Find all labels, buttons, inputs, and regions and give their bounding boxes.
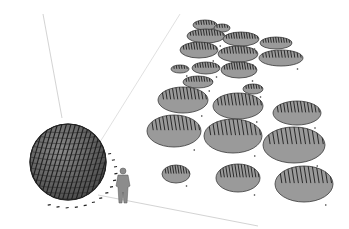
disc[interactable] [158,87,208,117]
disc[interactable] [162,165,190,187]
disc[interactable] [216,164,260,196]
human-scale-figure-icon[interactable] [116,168,130,203]
disc[interactable] [147,115,201,151]
sphere-model-icon[interactable] [18,124,121,200]
3d-scene-canvas[interactable] [0,0,349,229]
disc[interactable] [171,65,189,77]
disc[interactable] [213,93,263,123]
disc[interactable] [204,119,262,157]
disc-array-icon [147,20,333,206]
disc[interactable] [221,62,257,82]
disc[interactable] [192,62,220,78]
viewport[interactable] [0,0,349,229]
disc[interactable] [275,166,333,206]
disc[interactable] [263,127,325,167]
disc[interactable] [259,50,303,70]
disc[interactable] [180,42,218,62]
disc[interactable] [273,101,321,129]
